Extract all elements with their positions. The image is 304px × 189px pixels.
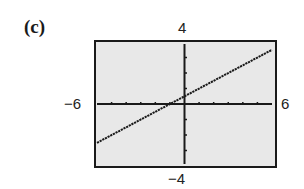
graph-window <box>0 0 304 189</box>
